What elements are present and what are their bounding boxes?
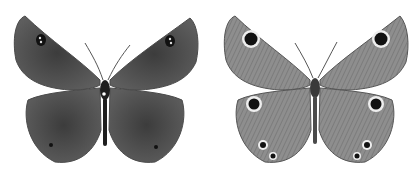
butterfly-underside-illustration bbox=[210, 0, 420, 173]
butterfly-upperside bbox=[0, 0, 210, 173]
butterfly-upperside-illustration bbox=[0, 0, 210, 173]
butterfly-plate bbox=[0, 0, 420, 173]
butterfly-underside bbox=[210, 0, 420, 173]
